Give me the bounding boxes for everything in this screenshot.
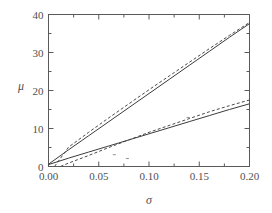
y-tick-label: 30: [33, 47, 45, 59]
x-tick-label: 0.15: [190, 170, 210, 182]
y-tick-label: 40: [33, 9, 45, 21]
x-axis-title: σ: [146, 193, 153, 207]
stray-marks-group: [113, 117, 190, 158]
series-lower-solid: [49, 104, 250, 165]
axes-border: [49, 15, 250, 167]
y-tick-label: 20: [33, 85, 45, 97]
plot-frame: [49, 15, 250, 167]
x-tick-label: 0.20: [240, 170, 260, 182]
y-axis-minor-ticks: [49, 34, 250, 148]
y-tick-label: 10: [33, 123, 45, 135]
y-tick-label: 0: [38, 161, 44, 173]
series-lower-dashed: [61, 100, 250, 167]
x-axis-major-ticks: [49, 15, 250, 167]
x-tick-label: 0.10: [139, 170, 159, 182]
x-tick-label: 0.05: [89, 170, 109, 182]
y-axis-title: μ: [17, 79, 24, 93]
chart-figure: 0.000.050.100.150.20 010203040 σ μ: [0, 0, 272, 213]
y-axis-major-ticks: [49, 15, 250, 167]
x-axis-tick-labels: 0.000.050.100.150.20: [39, 170, 260, 182]
y-axis-tick-labels: 010203040: [33, 9, 45, 173]
series-upper-solid: [49, 24, 250, 165]
plot-canvas: 0.000.050.100.150.20 010203040 σ μ: [0, 0, 272, 213]
data-series-group: [49, 22, 250, 166]
x-axis-minor-ticks: [74, 15, 225, 167]
